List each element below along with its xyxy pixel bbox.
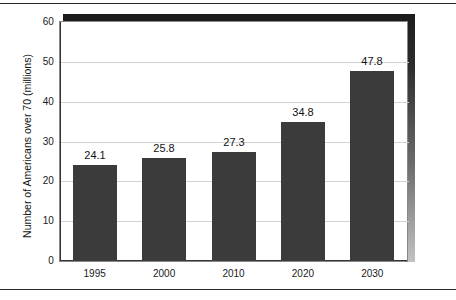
- bar: [350, 71, 394, 261]
- bar-value-label: 27.3: [192, 136, 276, 148]
- page-rule-top: [0, 3, 456, 4]
- bar: [142, 158, 186, 261]
- x-tick-label: 2010: [204, 268, 264, 279]
- plot-shadow-top: [63, 14, 415, 21]
- page-rule-bottom: [0, 289, 456, 290]
- y-tick-label: 60: [28, 16, 54, 27]
- y-axis-title: Number of Americans over 70 (millions): [21, 41, 33, 251]
- y-tick-label: 0: [28, 255, 54, 266]
- bar-value-label: 34.8: [261, 106, 345, 118]
- bar-value-label: 47.8: [330, 55, 414, 67]
- bar: [73, 165, 117, 261]
- x-tick-label: 2030: [342, 268, 402, 279]
- x-tick-label: 1995: [65, 268, 125, 279]
- bar: [212, 152, 256, 261]
- bar: [281, 122, 325, 261]
- x-tick-label: 2020: [273, 268, 333, 279]
- bar-chart-figure: 0102030405060 Number of Americans over 7…: [0, 0, 456, 300]
- x-tick-label: 2000: [134, 268, 194, 279]
- plot-shadow-right: [408, 14, 415, 262]
